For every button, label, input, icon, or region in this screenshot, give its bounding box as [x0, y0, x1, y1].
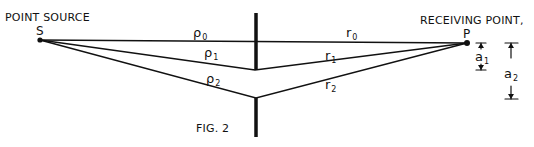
receiver-letter: P — [463, 28, 470, 40]
subscript: 2 — [331, 85, 336, 94]
figure-caption: FIG. 2 — [196, 123, 229, 134]
arrowhead-icon — [508, 43, 514, 48]
subscript: 0 — [202, 33, 207, 42]
arrowhead-icon — [478, 43, 484, 48]
rho-1-label: ρ1 — [204, 46, 218, 62]
rho-symbol: ρ — [193, 25, 201, 40]
receiving-point-label: RECEIVING POINT, — [420, 15, 524, 26]
r-symbol: r — [325, 48, 330, 63]
subscript: 2 — [215, 79, 220, 88]
subscript: 2 — [513, 74, 518, 83]
path-1-line — [40, 40, 467, 70]
subscript: 0 — [352, 33, 357, 42]
r-symbol: r — [325, 77, 330, 92]
a-symbol: a — [504, 66, 512, 81]
source-point-dot — [37, 37, 42, 42]
rho-symbol: ρ — [204, 45, 212, 60]
r-1-label: r1 — [325, 49, 336, 65]
rho-0-label: ρ0 — [193, 26, 207, 42]
a-symbol: a — [475, 49, 483, 64]
source-letter: S — [36, 25, 44, 37]
rho-2-label: ρ2 — [206, 72, 220, 88]
subscript: 1 — [213, 53, 218, 62]
point-source-label: POINT SOURCE — [5, 12, 90, 23]
direct-path-line — [40, 40, 467, 43]
a1-label: a1 — [475, 50, 489, 66]
subscript: 1 — [331, 56, 336, 65]
arrowhead-icon — [508, 94, 514, 99]
r-2-label: r2 — [325, 78, 336, 94]
r-0-label: r0 — [346, 26, 357, 42]
r-symbol: r — [346, 25, 351, 40]
a2-label: a2 — [504, 67, 518, 83]
subscript: 1 — [484, 57, 489, 66]
rho-symbol: ρ — [206, 71, 214, 86]
